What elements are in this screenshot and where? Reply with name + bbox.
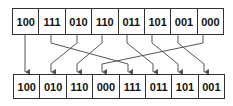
- output-cell: 010: [40, 75, 66, 98]
- output-row: 100 010 110 000 111 011 101 001: [13, 74, 225, 99]
- wire-110: [77, 34, 102, 72]
- output-cell: 011: [146, 75, 172, 98]
- output-cell: 100: [14, 75, 40, 98]
- output-cell: 000: [93, 75, 119, 98]
- output-cell: 001: [199, 75, 224, 98]
- output-cell: 101: [172, 75, 198, 98]
- wire-001: [178, 34, 204, 72]
- output-cell: 110: [67, 75, 93, 98]
- output-cell: 111: [120, 75, 146, 98]
- wire-010: [51, 34, 77, 72]
- wire-011: [127, 34, 153, 72]
